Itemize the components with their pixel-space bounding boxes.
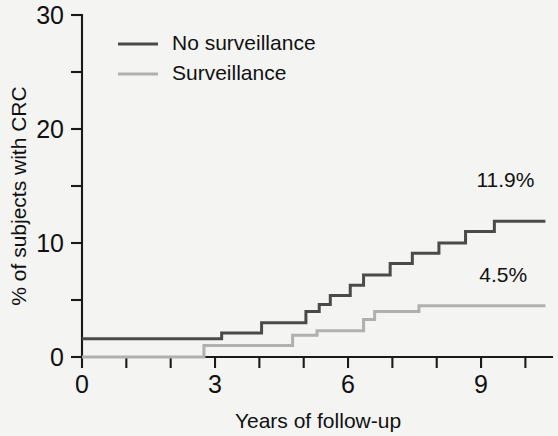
y-tick-label: 30 xyxy=(36,1,64,29)
x-tick-label: 3 xyxy=(208,370,222,398)
legend-label-surveillance: Surveillance xyxy=(172,61,286,84)
legend-label-no_surveillance: No surveillance xyxy=(172,31,316,54)
cumulative-incidence-chart: 01020300369 11.9%4.5% No surveillanceSur… xyxy=(0,0,558,436)
x-tick-label: 0 xyxy=(75,370,89,398)
surveillance-endpoint: 4.5% xyxy=(479,263,527,286)
figure-root: 01020300369 11.9%4.5% No surveillanceSur… xyxy=(0,0,558,436)
x-tick-label: 6 xyxy=(341,370,355,398)
y-tick-label: 20 xyxy=(36,115,64,143)
x-tick-label: 9 xyxy=(474,370,488,398)
x-axis-title: Years of follow-up xyxy=(235,409,401,432)
y-axis-title: % of subjects with CRC xyxy=(7,86,30,305)
no-surveillance-endpoint: 11.9% xyxy=(476,168,534,191)
y-tick-label: 0 xyxy=(50,343,64,371)
y-tick-label: 10 xyxy=(36,229,64,257)
